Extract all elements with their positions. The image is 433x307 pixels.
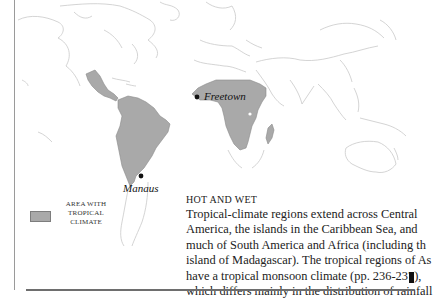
city-label-freetown: Freetown: [204, 90, 246, 102]
legend-swatch-tropical: [30, 211, 51, 222]
bottom-rule: [26, 289, 414, 291]
city-label-manaus: Manaus: [123, 182, 158, 194]
lake-victoria: [248, 112, 251, 115]
legend-line-2: tropical: [55, 209, 117, 218]
legend-line-3: climate: [55, 218, 117, 227]
legend-label: Area with tropical climate: [55, 200, 117, 227]
caption: Hot and wet Tropical-climate regions ext…: [186, 193, 426, 299]
caption-line: America, the islands in the Caribbean Se…: [186, 222, 426, 237]
manaus-marker-icon: [139, 174, 144, 179]
caption-title: Hot and wet: [186, 193, 426, 206]
legend-line-1: Area with: [55, 200, 117, 209]
left-margin-rule: [14, 0, 15, 290]
caption-line: island of Madagascar). The tropical regi…: [186, 253, 426, 268]
caption-line: have a tropical monsoon climate (pp. 236…: [186, 269, 426, 284]
caption-line: much of South America and Africa (includ…: [186, 238, 426, 253]
caption-line: which differs mainly in the distribution…: [186, 284, 426, 299]
caption-body: Tropical-climate regions extend across C…: [186, 207, 426, 299]
caption-line: Tropical-climate regions extend across C…: [186, 207, 426, 222]
text-cursor-marker: [409, 272, 414, 283]
tropical-regions: [86, 70, 274, 186]
freetown-marker-icon: [195, 95, 200, 100]
